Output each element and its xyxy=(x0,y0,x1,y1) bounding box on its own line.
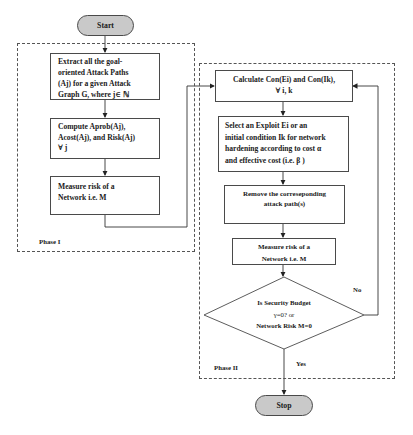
box-line: Extract all the goal- xyxy=(58,56,159,67)
measure-risk-box-1: Measure risk of a Network i.e. M xyxy=(50,176,160,215)
box-line: Network i.e. M xyxy=(58,192,159,203)
box-line: Measure risk of a xyxy=(58,181,159,192)
box-line: Acost(Aj), and Risk(Aj) xyxy=(58,133,159,144)
phase-1-label: Phase I xyxy=(39,238,60,245)
box-line: (Aj) for a given Attack xyxy=(58,78,159,89)
box-line: hardening according to cost α xyxy=(225,143,348,155)
box-line: and effective cost (i.e. β ) xyxy=(225,155,348,167)
box-line: Calculate Con(Ei) and Con(Ik), xyxy=(216,74,352,85)
box-line: Compute Aprob(Aj), xyxy=(58,122,159,133)
box-line: initial condition Ik for network xyxy=(225,132,348,144)
decision-line: γ=0? or xyxy=(234,309,334,321)
box-line: Graph G, where j∈ ℕ xyxy=(58,89,159,100)
box-line: Select an Exploit Ei or an xyxy=(225,120,348,132)
box-line: Measure risk of a xyxy=(233,241,335,253)
compute-risk-box: Compute Aprob(Aj), Acost(Aj), and Risk(A… xyxy=(50,118,160,159)
select-exploit-box: Select an Exploit Ei or an initial condi… xyxy=(218,116,349,172)
measure-risk-box-2: Measure risk of a Network i.e. M xyxy=(232,238,336,265)
decision-line: Is Security Budget xyxy=(234,297,334,309)
box-line: ∀ j xyxy=(58,143,159,154)
stop-terminal: Stop xyxy=(255,395,313,416)
decision-line: Network Risk M=0 xyxy=(234,320,334,332)
box-line: attack path(s) xyxy=(225,199,344,209)
start-terminal: Start xyxy=(77,15,134,36)
extract-attack-paths-box: Extract all the goal- oriented Attack Pa… xyxy=(50,53,160,100)
phase-2-label: Phase II xyxy=(214,364,238,371)
calculate-con-box: Calculate Con(Ei) and Con(Ik), ∀ i, k xyxy=(215,70,353,102)
box-line: ∀ i, k xyxy=(216,85,352,96)
remove-attack-path-box: Remove the correseponding attack path(s) xyxy=(224,185,345,224)
box-line: oriented Attack Paths xyxy=(58,67,159,78)
box-line: Network i.e. M xyxy=(233,253,335,265)
decision-text: Is Security Budget γ=0? or Network Risk … xyxy=(234,297,334,332)
no-label: No xyxy=(353,286,361,293)
box-line: Remove the correseponding xyxy=(225,189,344,199)
yes-label: Yes xyxy=(296,360,306,367)
